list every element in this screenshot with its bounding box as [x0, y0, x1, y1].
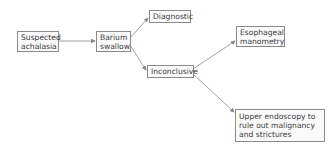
node-diagnostic: Diagnostic: [149, 10, 191, 23]
edge-inconclusive-manometry: [193, 41, 235, 69]
node-line: Upper endoscopy to: [239, 112, 321, 121]
node-line: swallow: [100, 42, 127, 51]
edge-barium-diagnostic: [130, 18, 148, 38]
node-esophageal-manometry: Esophageal manometry: [236, 26, 285, 47]
node-line: achalasia: [21, 42, 55, 51]
node-line: Inconclusive: [151, 67, 190, 76]
node-inconclusive: Inconclusive: [147, 65, 194, 78]
node-line: Barium: [100, 33, 127, 42]
node-barium-swallow: Barium swallow: [96, 31, 131, 52]
edge-inconclusive-endoscopy: [193, 74, 234, 112]
node-suspected-achalasia: Suspected achalasia: [17, 31, 59, 52]
node-line: Suspected: [21, 33, 55, 42]
edge-barium-inconclusive: [130, 45, 146, 70]
node-line: and strictures: [239, 130, 321, 139]
node-line: Esophageal: [240, 28, 281, 37]
node-line: Diagnostic: [153, 12, 187, 21]
node-line: rule out malignancy: [239, 121, 321, 130]
node-upper-endoscopy: Upper endoscopy to rule out malignancy a…: [235, 109, 325, 142]
node-line: manometry: [240, 37, 281, 46]
